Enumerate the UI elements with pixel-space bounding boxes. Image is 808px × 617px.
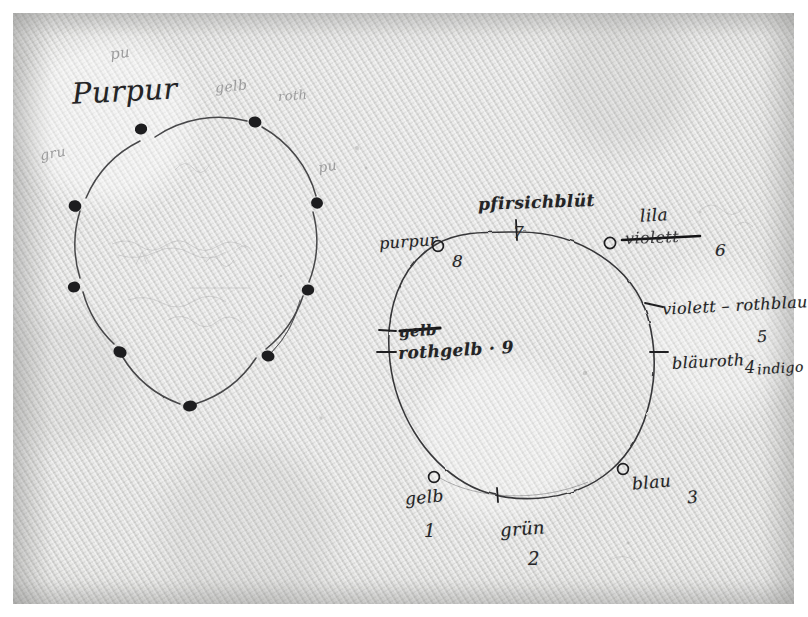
pencil-note-gelb-top: gelb [214, 76, 248, 95]
pencil-note-roth-top: roth [278, 87, 308, 104]
label-pfirsichblut: pfirsichblüt [478, 190, 595, 214]
number-grun: 2 [528, 548, 540, 569]
pencil-note-pu-right: pu [317, 157, 338, 176]
pencil-note-pu-top: pu [109, 43, 131, 63]
number-violett-rothblau: 5 [756, 327, 768, 347]
label-violett-struck: violett [625, 227, 680, 248]
left-circle-title: Purpur [71, 71, 178, 110]
label-grun: grün [499, 516, 545, 540]
number-gelb: 1 [424, 520, 436, 541]
label-blauroth: bläuroth [672, 350, 745, 373]
label-lila: lila [639, 204, 668, 225]
number-purpur: 8 [452, 251, 463, 271]
number-lila: 6 [715, 240, 726, 260]
number-blau: 3 [686, 486, 699, 507]
label-gelb-struck: gelb [398, 321, 437, 342]
label-gelb: gelb [404, 485, 444, 508]
number-blauroth: 4 [745, 358, 756, 377]
label-blau: blau [631, 470, 672, 493]
label-indigo: indigo [756, 358, 804, 377]
number-pfirsichblut: 7 [513, 222, 524, 242]
